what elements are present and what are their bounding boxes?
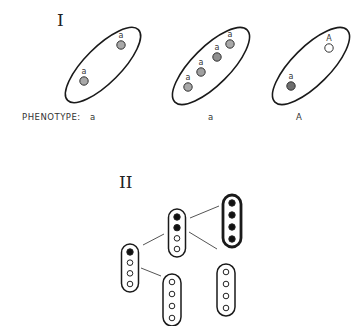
part-one-cells: aaaaaaAa xyxy=(55,17,359,116)
allele-label: a xyxy=(186,73,191,82)
chromosome-dot xyxy=(117,41,125,49)
allele-label: a xyxy=(82,67,87,76)
phenotype-label: PHENOTYPE: a xyxy=(22,112,96,122)
chromosome-dot xyxy=(197,68,205,76)
capsule-cell-bottom-middle xyxy=(163,274,181,326)
cell-3: Aa xyxy=(262,17,359,116)
chromosome-dot xyxy=(287,82,295,90)
part-one-diploid-cells: I aaaaaaAa PHENOTYPE: a a A xyxy=(22,10,359,122)
allele-label: a xyxy=(228,30,233,39)
cell-membrane xyxy=(55,17,151,113)
filled-dot-icon xyxy=(229,212,235,218)
phenotype-value-1: a xyxy=(90,112,96,122)
filled-dot-icon xyxy=(229,224,235,230)
filled-dot-icon xyxy=(229,236,235,242)
roman-numeral-two: II xyxy=(119,172,132,192)
open-dot-icon xyxy=(223,293,229,299)
cell-membrane xyxy=(162,17,261,116)
roman-numeral-one: I xyxy=(57,10,64,30)
chromosome-dot xyxy=(226,40,234,48)
open-dot-icon xyxy=(223,281,229,287)
open-dot-icon xyxy=(169,291,175,297)
capsule-cell-left xyxy=(122,244,139,292)
allele-label: a xyxy=(199,58,204,67)
genetics-figure: I aaaaaaAa PHENOTYPE: a a A II xyxy=(0,0,359,326)
phenotype-value-2: a xyxy=(208,112,214,122)
lineage-connector xyxy=(189,232,217,249)
open-dot-icon xyxy=(223,305,229,311)
cell-2: aaaa xyxy=(162,17,261,116)
filled-dot-icon xyxy=(174,224,180,230)
open-dot-icon xyxy=(223,269,229,275)
lineage-connector xyxy=(141,268,161,276)
lineage-connector xyxy=(143,234,164,245)
capsule-cell-bottom-right xyxy=(217,264,235,316)
capsule-cell-top-right xyxy=(223,195,241,247)
open-dot-icon xyxy=(169,315,175,321)
allele-label: a xyxy=(215,43,220,52)
open-dot-icon xyxy=(127,271,133,277)
chromosome-dot xyxy=(184,83,192,91)
open-dot-icon xyxy=(174,236,180,242)
open-dot-icon xyxy=(127,260,133,266)
chromosome-dot xyxy=(80,77,88,85)
phenotype-value-3: A xyxy=(296,112,302,122)
cell-membrane xyxy=(262,17,359,116)
part-two-cells xyxy=(122,195,242,326)
open-dot-icon xyxy=(169,279,175,285)
open-dot-icon xyxy=(174,246,180,252)
cell-1: aa xyxy=(55,17,151,113)
lineage-connector xyxy=(190,206,219,218)
allele-label: A xyxy=(326,34,332,43)
phenotype-prefix: PHENOTYPE: xyxy=(22,112,81,122)
chromosome-dot xyxy=(325,44,333,52)
part-two-lineage: II xyxy=(119,172,241,326)
capsule-cell-top-middle xyxy=(169,209,186,257)
open-dot-icon xyxy=(169,303,175,309)
open-dot-icon xyxy=(127,281,133,287)
filled-dot-icon xyxy=(127,249,133,255)
allele-label: a xyxy=(119,31,124,40)
allele-label: a xyxy=(289,72,294,81)
filled-dot-icon xyxy=(174,214,180,220)
chromosome-dot xyxy=(213,53,221,61)
filled-dot-icon xyxy=(229,200,235,206)
